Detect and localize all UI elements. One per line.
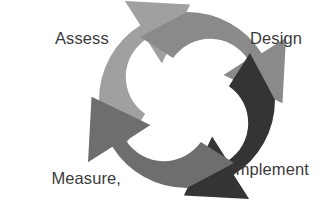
stage-label-measure-line-1: Measure, [8, 168, 121, 189]
stage-label-assess: Assess [55, 28, 109, 48]
stage-label-measure: Measure, Reflect, and Change [8, 127, 121, 210]
stage-label-design: Design [250, 28, 302, 48]
stage-label-implement: Implement [231, 159, 309, 179]
cycle-diagram-figure: Assess Design Implement Measure, Reflect… [0, 0, 333, 210]
